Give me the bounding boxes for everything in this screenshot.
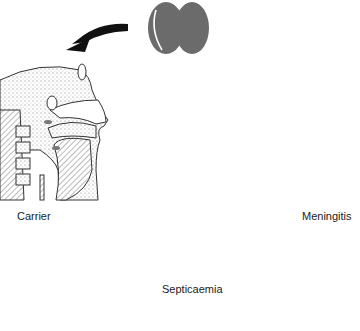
diagram-canvas	[0, 0, 360, 331]
meningitis-label: Meningitis	[302, 210, 352, 222]
carrier-label: Carrier	[17, 210, 51, 222]
diplococcus-bacteria-icon	[148, 2, 209, 54]
septicaemia-label: Septicaemia	[160, 283, 225, 295]
arrow-to-carrier	[66, 24, 128, 52]
carrier-head-illustration	[0, 64, 108, 200]
